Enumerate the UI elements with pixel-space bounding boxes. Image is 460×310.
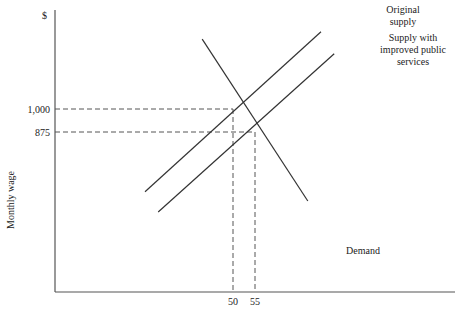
original-supply-label: Originalsupply xyxy=(386,4,420,27)
demand-label: Demand xyxy=(346,245,380,256)
y-tick-label: 875 xyxy=(35,127,50,138)
improved-supply-label: Supply withimproved publicservices xyxy=(380,32,446,67)
y-unit-label: $ xyxy=(42,10,47,21)
x-tick-label: 50 xyxy=(228,296,238,307)
y-tick-label: 1,000 xyxy=(28,104,51,115)
x-tick-label: 55 xyxy=(250,296,260,307)
chart: $ Monthly wage 1,0008755055 Originalsupp… xyxy=(0,0,460,310)
improved-supply-line xyxy=(158,54,334,212)
y-axis-label: Monthly wage xyxy=(5,170,16,229)
